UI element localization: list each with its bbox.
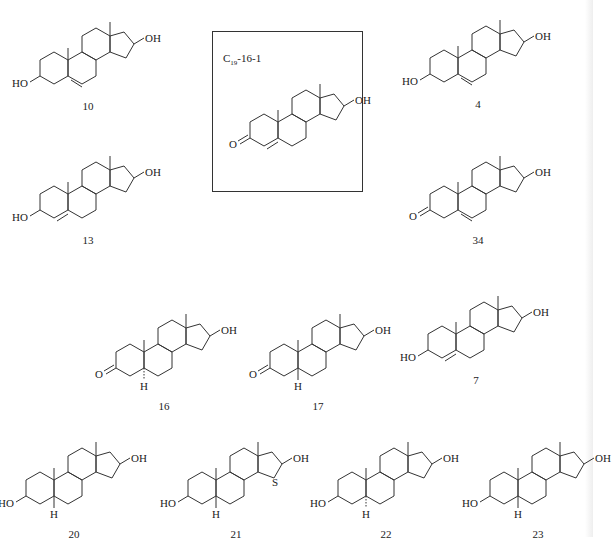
compound-number-label: 23 — [518, 528, 558, 540]
svg-text:OH: OH — [131, 452, 147, 464]
svg-text:HO: HO — [462, 497, 478, 509]
compound-7: OHHO7 — [390, 282, 560, 377]
steroid-structure-icon: OHO — [392, 142, 562, 237]
compound-21: OHHOH21 — [150, 428, 320, 523]
svg-text:OH: OH — [375, 324, 391, 336]
compound-number-label: 7 — [456, 374, 496, 386]
steroid-structure-icon: OHO — [212, 70, 382, 165]
svg-text:OH: OH — [145, 32, 161, 44]
svg-text:OH: OH — [355, 94, 371, 106]
annotation-s: S — [272, 476, 278, 488]
svg-text:HO: HO — [0, 497, 14, 509]
svg-text:HO: HO — [12, 211, 28, 223]
steroid-structure-icon: OHHOH — [452, 428, 616, 523]
svg-text:HO: HO — [12, 77, 28, 89]
svg-text:HO: HO — [310, 497, 326, 509]
steroid-structure-icon: OHHO — [390, 282, 560, 377]
compound-34: OHO34 — [392, 142, 562, 237]
compound-22: OHHOH22 — [300, 428, 470, 523]
compound-23: OHHOH23 — [452, 428, 616, 523]
compound-number-label: 4 — [458, 98, 498, 110]
svg-text:O: O — [95, 368, 103, 380]
compound-number-label: 22 — [366, 528, 406, 540]
svg-text:H: H — [212, 508, 220, 520]
compound-number-label: 13 — [68, 234, 108, 246]
svg-text:H: H — [50, 508, 58, 520]
steroid-structure-icon: OHHOH — [150, 428, 320, 523]
svg-text:HO: HO — [400, 351, 416, 363]
svg-text:H: H — [140, 380, 148, 392]
svg-text:H: H — [294, 380, 302, 392]
compound-c19-16-1: OHO — [212, 70, 382, 165]
svg-text:OH: OH — [145, 166, 161, 178]
compound-number-label: 17 — [298, 400, 338, 412]
compound-number-label: 10 — [68, 100, 108, 112]
compound-10: OHHO10 — [2, 8, 172, 103]
svg-text:O: O — [229, 138, 237, 150]
steroid-structure-icon: OHHOH — [300, 428, 470, 523]
compound-number-label: 20 — [54, 528, 94, 540]
compound-16: OHOH16 — [78, 300, 248, 395]
svg-text:H: H — [514, 508, 522, 520]
svg-text:OH: OH — [535, 166, 551, 178]
svg-text:OH: OH — [595, 452, 611, 464]
steroid-structure-icon: OHHOH — [0, 428, 158, 523]
box-title: C19-16-1 — [223, 52, 261, 67]
steroid-structure-icon: OHOH — [232, 300, 402, 395]
compound-17: OHOH17 — [232, 300, 402, 395]
steroid-structure-icon: OHHO — [392, 6, 562, 101]
compound-4: OHHO4 — [392, 6, 562, 101]
svg-text:H: H — [362, 508, 370, 520]
box-title-suffix: -16-1 — [237, 52, 261, 64]
steroid-structure-icon: OHHO — [2, 142, 172, 237]
svg-text:HO: HO — [402, 75, 418, 87]
svg-text:O: O — [249, 368, 257, 380]
svg-text:O: O — [409, 210, 417, 222]
svg-text:OH: OH — [533, 306, 549, 318]
steroid-structure-icon: OHOH — [78, 300, 248, 395]
compound-13: OHHO13 — [2, 142, 172, 237]
compound-number-label: 16 — [144, 400, 184, 412]
steroid-structure-icon: OHHO — [2, 8, 172, 103]
svg-text:OH: OH — [535, 30, 551, 42]
compound-number-label: 34 — [458, 234, 498, 246]
svg-text:HO: HO — [160, 497, 176, 509]
compound-number-label: 21 — [216, 528, 256, 540]
compound-20: OHHOH20 — [0, 428, 158, 523]
